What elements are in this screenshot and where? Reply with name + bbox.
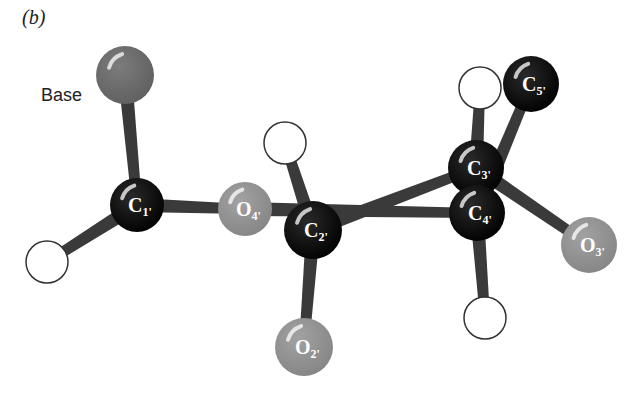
atom-O2: O2' — [275, 318, 333, 376]
atom-H2 — [264, 122, 306, 164]
atom-C2: C2' — [284, 201, 342, 259]
ribose-molecule-diagram: C1'O4'C2'O2'C5'C3'C4'O3' — [0, 0, 636, 398]
atom-O3: O3' — [561, 217, 617, 273]
atom-H1 — [26, 241, 68, 283]
atom-C5: C5' — [503, 56, 559, 112]
atom-C1: C1' — [110, 178, 164, 232]
atom-base — [96, 46, 154, 104]
atom-C4: C4' — [449, 185, 505, 241]
atom-H4 — [464, 297, 506, 339]
atom-H3 — [459, 67, 501, 109]
atom-layer: C1'O4'C2'O2'C5'C3'C4'O3' — [26, 46, 617, 376]
atom-O4: O4' — [218, 182, 272, 236]
